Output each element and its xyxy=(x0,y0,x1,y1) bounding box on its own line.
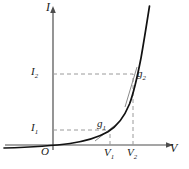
figure-canvas xyxy=(0,0,189,169)
x-tick-label-v2: V2 xyxy=(127,147,137,161)
point-label-g1: g1 xyxy=(97,118,106,132)
point-g2-subscript: 2 xyxy=(143,74,146,81)
x-tick-label-v1: V1 xyxy=(104,147,114,161)
x-tick-v1-base: V xyxy=(104,146,111,158)
iv-curve xyxy=(4,6,150,148)
x-tick-v2-base: V xyxy=(127,146,134,158)
y-tick-label-i2: I2 xyxy=(31,66,38,80)
x-axis-label: V xyxy=(170,142,177,154)
point-g1-subscript: 1 xyxy=(103,124,106,131)
x-tick-v2-subscript: 2 xyxy=(134,153,137,160)
y-tick-label-i1: I1 xyxy=(31,122,38,136)
x-tick-v1-subscript: 1 xyxy=(111,153,114,160)
guide-lines xyxy=(53,74,133,145)
y-axis-arrow-icon xyxy=(50,6,56,13)
iv-curve-path xyxy=(4,6,150,148)
y-axis-label: I xyxy=(46,1,50,13)
y-tick-i2-subscript: 2 xyxy=(35,72,38,79)
point-label-g2: g2 xyxy=(137,68,146,82)
origin-label: O xyxy=(41,146,49,157)
y-tick-i1-subscript: 1 xyxy=(35,128,38,135)
iv-characteristic-figure: I V O I2 I1 V1 V2 g1 g2 xyxy=(0,0,189,169)
y-axis xyxy=(50,6,56,150)
